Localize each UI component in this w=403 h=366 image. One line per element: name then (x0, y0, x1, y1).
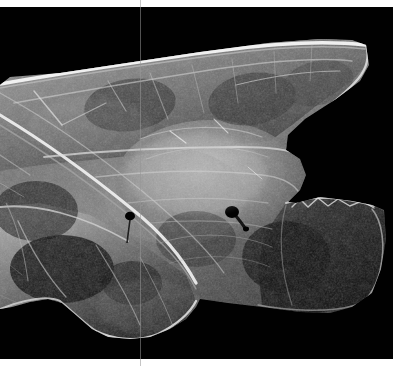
specimen-photo (0, 7, 393, 359)
specular-bloom-layer (0, 7, 393, 359)
margin-right (393, 0, 403, 366)
vertical-scan-line (140, 0, 141, 366)
margin-bottom (0, 359, 403, 366)
photograph-page (0, 0, 403, 366)
vertical-scan-line-top (140, 0, 141, 7)
margin-top (0, 0, 403, 7)
